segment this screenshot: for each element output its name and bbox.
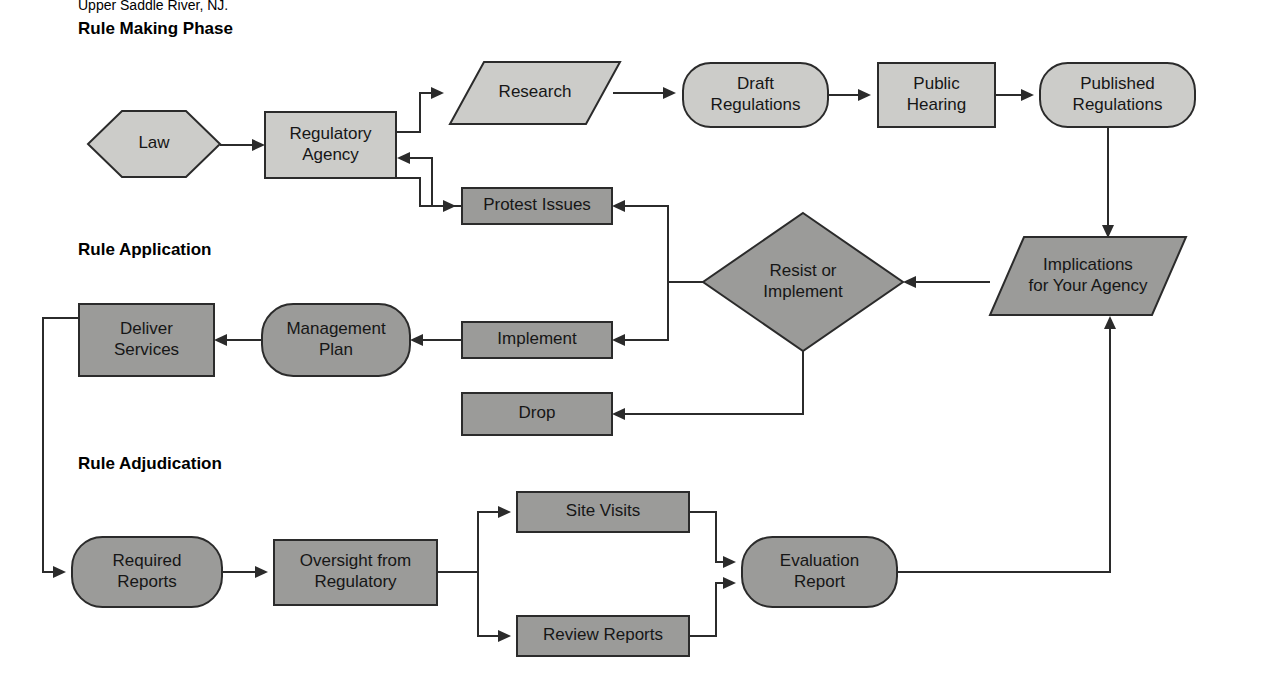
node-label-line: Regulatory (289, 124, 372, 143)
edge-diamond-to-drop (612, 351, 803, 420)
edge-management-to-deliver (214, 334, 262, 346)
section-titles-layer: Rule Making PhaseRule ApplicationRule Ad… (78, 19, 233, 473)
section-title-rule-application: Rule Application (78, 240, 212, 259)
node-research[interactable]: Research (450, 62, 620, 124)
node-label-line: Agency (302, 145, 359, 164)
node-drop[interactable]: Drop (462, 393, 612, 435)
node-label-line: Regulations (1073, 95, 1163, 114)
edge-required-to-oversight (222, 566, 268, 578)
arrowhead-icon (612, 200, 625, 212)
arrowhead-icon (498, 506, 511, 518)
edge-draft-to-hearing (828, 89, 871, 101)
node-label-line: Protest Issues (483, 195, 591, 214)
edge-review-reports-to-evaluation (689, 577, 736, 636)
nodes-layer: LawRegulatoryAgencyResearchDraftRegulati… (72, 62, 1195, 656)
flowchart-canvas: LawRegulatoryAgencyResearchDraftRegulati… (0, 0, 1272, 683)
node-label-line: Research (499, 82, 572, 101)
arrowhead-icon (255, 566, 268, 578)
edge-diamond-to-implement (612, 282, 668, 346)
node-label-line: Oversight from (300, 551, 411, 570)
edge-law-to-agency (220, 139, 265, 151)
arrowhead-icon (397, 152, 410, 164)
node-label-line: Review Reports (543, 625, 663, 644)
node-review-reports[interactable]: Review Reports (517, 616, 689, 656)
section-title-rule-adjudication: Rule Adjudication (78, 454, 222, 473)
node-implications[interactable]: Implicationsfor Your Agency (990, 237, 1186, 315)
node-label-line: Resist or (769, 261, 836, 280)
node-label-line: Hearing (907, 95, 967, 114)
node-deliver-services[interactable]: DeliverServices (79, 304, 214, 376)
node-label-line: Public (913, 74, 960, 93)
node-required-reports[interactable]: RequiredReports (72, 537, 222, 607)
node-label-line: Required (113, 551, 182, 570)
node-site-visits[interactable]: Site Visits (517, 492, 689, 532)
arrowhead-icon (663, 87, 676, 99)
node-label-line: Law (138, 133, 170, 152)
arrowhead-icon (1021, 89, 1034, 101)
arrowhead-icon (612, 334, 625, 346)
node-public-hearing[interactable]: PublicHearing (878, 63, 995, 127)
arrowhead-icon (214, 334, 227, 346)
arrowhead-icon (903, 276, 916, 288)
node-implement[interactable]: Implement (462, 322, 612, 358)
node-label-line: Implement (763, 282, 843, 301)
arrowhead-icon (723, 556, 736, 568)
node-label-line: Evaluation (780, 551, 859, 570)
node-label-line: Site Visits (566, 501, 640, 520)
node-resist-or-implement[interactable]: Resist orImplement (703, 213, 903, 351)
arrowhead-icon (53, 566, 66, 578)
node-evaluation-report[interactable]: EvaluationReport (742, 537, 897, 607)
arrowhead-icon (431, 87, 444, 99)
edge-agency-to-research (396, 87, 444, 132)
section-title-rule-making-phase: Rule Making Phase (78, 19, 233, 38)
node-label-line: Draft (737, 74, 774, 93)
node-regulatory-agency[interactable]: RegulatoryAgency (265, 112, 396, 178)
node-label-line: Drop (519, 403, 556, 422)
arrowhead-icon (410, 334, 423, 346)
arrowhead-icon (252, 139, 265, 151)
node-protest-issues[interactable]: Protest Issues (462, 188, 612, 224)
node-label-line: Regulatory (314, 572, 397, 591)
node-label-line: Management (286, 319, 386, 338)
node-oversight-regulatory[interactable]: Oversight fromRegulatory (274, 540, 437, 605)
node-label-line: Deliver (120, 319, 173, 338)
arrowhead-icon (1104, 316, 1116, 329)
edge-evaluation-to-implications (897, 316, 1116, 572)
edge-hearing-to-published (995, 89, 1034, 101)
edge-diamond-to-protest (612, 200, 703, 282)
node-label-line: Plan (319, 340, 353, 359)
edge-implications-to-diamond (903, 276, 990, 288)
edge-published-to-implications (1102, 127, 1114, 238)
edge-oversight-to-site-visits (437, 506, 511, 572)
arrowhead-icon (498, 630, 511, 642)
node-label-line: Implement (497, 329, 577, 348)
node-label-line: Implications (1043, 255, 1133, 274)
node-label-line: Published (1080, 74, 1155, 93)
node-label-line: Regulations (711, 95, 801, 114)
flowchart-page: Upper Saddle River, NJ. LawRegulatoryAge… (0, 0, 1272, 683)
node-label-line: Report (794, 572, 845, 591)
node-label-line: Reports (117, 572, 177, 591)
edge-site-visits-to-evaluation (689, 512, 736, 568)
node-published-regulations[interactable]: PublishedRegulations (1040, 63, 1195, 127)
arrowhead-icon (612, 408, 625, 420)
edge-research-to-draft (613, 87, 676, 99)
edge-deliver-to-required (43, 318, 79, 578)
arrowhead-icon (858, 89, 871, 101)
edge-implement-to-management (410, 334, 462, 346)
node-label-line: Services (114, 340, 179, 359)
node-label-line: for Your Agency (1028, 276, 1148, 295)
node-draft-regulations[interactable]: DraftRegulations (683, 63, 828, 127)
edge-oversight-to-review-reports (478, 572, 511, 642)
node-law[interactable]: Law (88, 111, 220, 177)
arrowhead-icon (723, 577, 736, 589)
node-management-plan[interactable]: ManagementPlan (262, 304, 410, 376)
